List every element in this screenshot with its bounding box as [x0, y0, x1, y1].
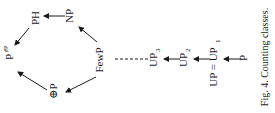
node-ph: PH: [29, 11, 41, 25]
svg-text:3: 3: [154, 48, 162, 52]
edge-ph-psharpp: [15, 28, 29, 45]
edge-fewp-parityp: [66, 77, 96, 92]
figure-caption: Fig. 4. Counting classes.: [259, 8, 270, 106]
svg-text:UP: UP: [177, 53, 189, 67]
node-p: P: [237, 55, 249, 61]
edge-fewp-np: [79, 27, 97, 42]
node-parity-p: ⊕P: [47, 83, 59, 98]
node-fewp: FewP: [93, 47, 105, 72]
counting-classes-diagram: PH NP P #P ⊕P FewP UP 3 UP 2 UP = UP 1 P…: [0, 0, 275, 113]
svg-text:P: P: [3, 54, 15, 60]
svg-text:UP: UP: [147, 53, 159, 67]
svg-text:2: 2: [184, 48, 192, 52]
svg-text:1: 1: [214, 39, 222, 43]
node-p-sharp-p: P #P: [3, 45, 15, 60]
svg-text:UP = UP: UP = UP: [207, 47, 219, 86]
node-up2: UP 2: [177, 48, 192, 67]
node-up-eq-up1: UP = UP 1: [207, 39, 222, 87]
node-up3: UP 3: [147, 48, 162, 67]
svg-text:#P: #P: [3, 45, 9, 52]
edge-parityp-psharpp: [18, 72, 47, 90]
